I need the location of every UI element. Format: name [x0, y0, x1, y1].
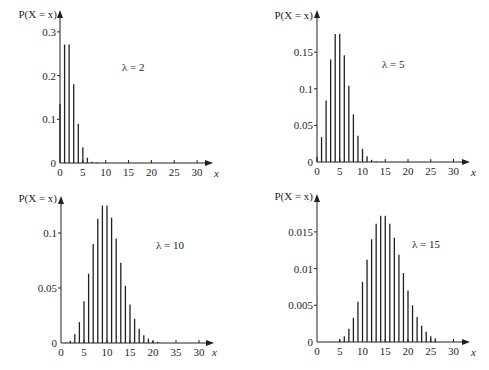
- x-tick-label: 30: [194, 346, 206, 358]
- x-axis-title: x: [470, 346, 476, 358]
- bars: [60, 45, 97, 163]
- bars: [317, 34, 381, 162]
- x-tick-label: 5: [337, 165, 343, 177]
- y-axis-title: P(X = x): [274, 190, 313, 203]
- x-tick-label: 35: [171, 346, 183, 358]
- x-tick-label: 10: [357, 345, 369, 357]
- y-tick-label: 0.005: [288, 299, 313, 311]
- y-tick-label: 0.05: [38, 282, 58, 294]
- bars: [340, 216, 436, 342]
- chart-panel-lambda-2: 051015202530 00.10.20.3 P(X = x) x λ = 2: [18, 8, 219, 179]
- x-tick-label: 20: [146, 166, 158, 178]
- y-ticks: 00.0050.010.015: [288, 226, 317, 348]
- x-tick-label: 25: [169, 166, 181, 178]
- x-axis-title: x: [211, 346, 217, 358]
- y-axis-title: P(X = x): [18, 8, 57, 21]
- x-tick-label: 15: [125, 346, 137, 358]
- y-tick-label: 0: [308, 156, 314, 168]
- y-tick-label: 0: [51, 157, 57, 169]
- y-tick-label: 0.1: [43, 227, 57, 239]
- x-tick-label: 0: [314, 345, 320, 357]
- x-tick-label: 15: [380, 345, 392, 357]
- x-tick-label: 10: [357, 165, 369, 177]
- x-tick-label: 20: [403, 165, 415, 177]
- y-tick-label: 0.01: [294, 263, 313, 275]
- lambda-label: λ = 5: [382, 58, 405, 70]
- y-tick-label: 0.2: [42, 70, 56, 82]
- x-tick-label: 0: [314, 165, 320, 177]
- x-tick-label: 20: [403, 345, 415, 357]
- y-ticks: 00.050.1: [38, 227, 61, 349]
- y-axis-title: P(X = x): [274, 9, 313, 22]
- y-tick-label: 0.1: [299, 83, 313, 95]
- y-ticks: 00.050.10.15: [294, 46, 317, 168]
- x-tick-label: 5: [337, 345, 343, 357]
- bars: [61, 206, 158, 344]
- x-tick-label: 30: [192, 166, 204, 178]
- poisson-distribution-figure: 051015202530 00.10.20.3 P(X = x) x λ = 2…: [0, 0, 489, 370]
- x-tick-label: 15: [380, 165, 392, 177]
- x-tick-label: 5: [81, 346, 87, 358]
- y-tick-label: 0.15: [294, 46, 314, 58]
- y-tick-label: 0: [52, 337, 58, 349]
- x-tick-label: 10: [100, 166, 112, 178]
- x-tick-label: 5: [80, 166, 86, 178]
- chart-panel-lambda-10: 051015203530 00.050.1 P(X = x) x λ = 10: [18, 192, 217, 358]
- x-tick-label: 25: [425, 345, 437, 357]
- y-axis-title: P(X = x): [18, 192, 57, 205]
- chart-panel-lambda-5: 051015202530 00.050.10.15 P(X = x) x λ =…: [274, 9, 476, 178]
- y-tick-label: 0.1: [42, 113, 56, 125]
- x-tick-label: 15: [123, 166, 135, 178]
- x-axis-title: x: [470, 166, 476, 178]
- x-tick-label: 0: [57, 166, 63, 178]
- x-tick-label: 25: [425, 165, 437, 177]
- lambda-label: λ = 10: [156, 239, 185, 251]
- x-tick-label: 20: [148, 346, 160, 358]
- y-tick-label: 0.015: [288, 226, 313, 238]
- x-tick-label: 0: [58, 346, 64, 358]
- y-tick-label: 0.05: [294, 119, 314, 131]
- x-tick-label: 10: [102, 346, 114, 358]
- y-ticks: 00.10.20.3: [42, 26, 60, 169]
- x-tick-label: 30: [448, 165, 460, 177]
- lambda-label: λ = 2: [122, 61, 145, 73]
- chart-panel-lambda-15: 051015202530 00.0050.010.015 P(X = x) x …: [274, 190, 476, 358]
- lambda-label: λ = 15: [412, 238, 441, 250]
- y-tick-label: 0.3: [42, 26, 56, 38]
- x-tick-label: 30: [448, 345, 460, 357]
- x-axis-title: x: [213, 167, 219, 179]
- y-tick-label: 0: [308, 336, 314, 348]
